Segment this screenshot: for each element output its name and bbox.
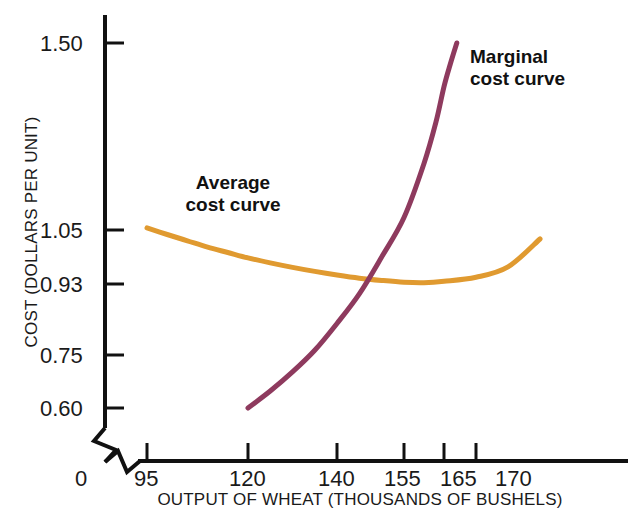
x-tick-label-origin: 0: [75, 466, 87, 492]
y-tick-label-093: 0.93: [40, 272, 83, 298]
y-tick-label-105: 1.05: [40, 218, 83, 244]
y-axis-title: COST (DOLLARS PER UNIT): [22, 112, 42, 352]
y-tick-label-150: 1.50: [40, 31, 83, 57]
x-tick-label-165: 165: [440, 466, 477, 492]
average-cost-curve-label-line2: cost curve: [168, 194, 298, 216]
x-axis-title: OUTPUT OF WHEAT (THOUSANDS OF BUSHELS): [150, 490, 570, 510]
marginal-cost-curve-label-line2: cost curve: [470, 68, 620, 90]
x-tick-label-95: 95: [134, 466, 158, 492]
y-axis-ticks: [105, 43, 124, 408]
average-cost-curve-label-line1: Average: [168, 172, 298, 194]
x-tick-label-120: 120: [229, 466, 266, 492]
y-tick-label-060: 0.60: [40, 396, 83, 422]
marginal-cost-curve-label-line1: Marginal: [470, 46, 620, 68]
y-tick-label-075: 0.75: [40, 343, 83, 369]
average-cost-curve-label: Average cost curve: [168, 172, 298, 217]
x-tick-label-155: 155: [384, 466, 421, 492]
cost-curves-figure: 1.50 1.05 0.93 0.75 0.60 0 95 120 140 15…: [0, 0, 628, 517]
x-axis-ticks: [147, 443, 476, 461]
x-tick-label-140: 140: [318, 466, 355, 492]
marginal-cost-curve: [248, 43, 457, 408]
average-cost-curve: [147, 228, 540, 283]
x-tick-label-170: 170: [495, 466, 532, 492]
marginal-cost-curve-label: Marginal cost curve: [470, 46, 620, 91]
